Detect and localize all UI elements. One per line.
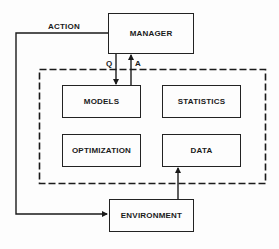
diagram-canvas: ACTION Q A MANAGER MODELS STATISTICS OPT… bbox=[0, 0, 279, 249]
environment-node[interactable]: ENVIRONMENT bbox=[109, 199, 194, 232]
answer-label: A bbox=[135, 59, 141, 68]
action-label: ACTION bbox=[48, 22, 80, 31]
statistics-node[interactable]: STATISTICS bbox=[162, 85, 241, 118]
models-node[interactable]: MODELS bbox=[62, 85, 141, 118]
optimization-node[interactable]: OPTIMIZATION bbox=[62, 134, 141, 167]
manager-node[interactable]: MANAGER bbox=[108, 13, 194, 54]
query-label: Q bbox=[106, 59, 112, 68]
data-node[interactable]: DATA bbox=[162, 134, 241, 167]
action-arrow bbox=[16, 33, 109, 214]
